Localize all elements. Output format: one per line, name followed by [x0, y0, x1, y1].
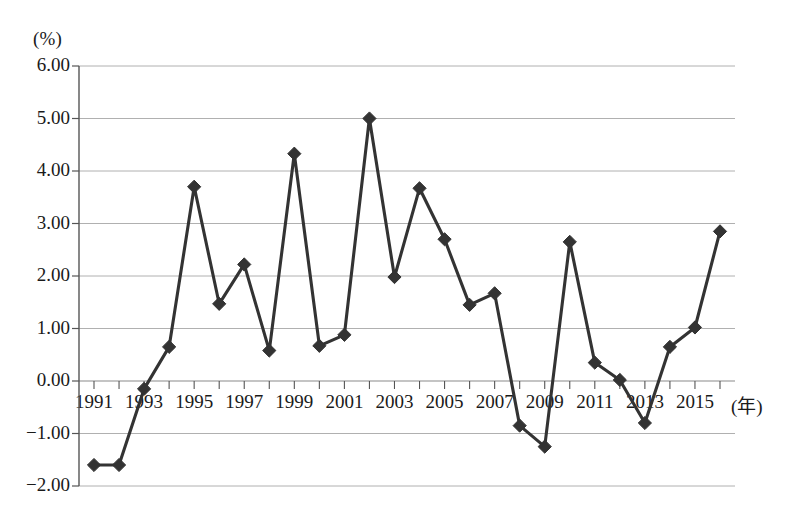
- data-point-marker: [413, 182, 426, 195]
- data-series-line: [94, 119, 720, 466]
- line-chart: (%) 6.005.004.003.002.001.000.00−1.00−2.…: [0, 0, 788, 529]
- data-point-marker: [338, 328, 351, 341]
- data-point-marker: [87, 458, 100, 471]
- data-point-marker: [388, 270, 401, 283]
- data-point-marker: [463, 298, 476, 311]
- data-point-marker: [288, 147, 301, 160]
- data-point-marker: [563, 235, 576, 248]
- data-point-marker: [363, 112, 376, 125]
- plot-area: [0, 0, 788, 529]
- data-point-marker: [313, 339, 326, 352]
- data-point-marker: [438, 233, 451, 246]
- data-point-marker: [188, 180, 201, 193]
- data-point-marker: [713, 225, 726, 238]
- data-series-markers: [87, 112, 726, 472]
- y-axis-ticks: [72, 66, 79, 486]
- data-point-marker: [137, 382, 150, 395]
- data-point-marker: [112, 458, 125, 471]
- data-point-marker: [163, 340, 176, 353]
- data-point-marker: [638, 416, 651, 429]
- data-point-marker: [263, 344, 276, 357]
- series-polyline: [94, 119, 720, 466]
- data-point-marker: [488, 287, 501, 300]
- gridlines: [79, 66, 735, 486]
